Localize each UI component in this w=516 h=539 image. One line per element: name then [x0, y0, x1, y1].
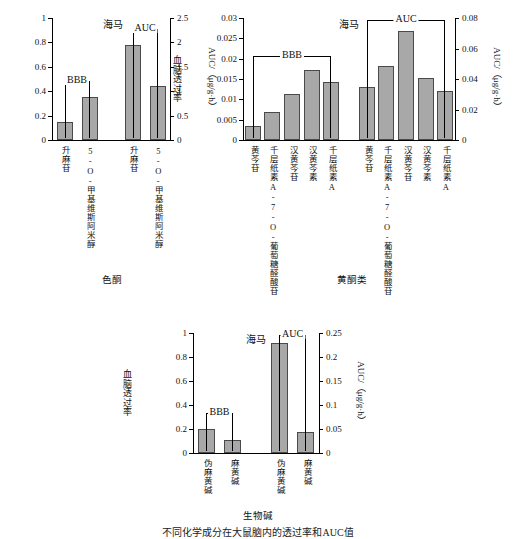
- left-axis-line: [193, 333, 194, 454]
- right-tick-mark: [319, 381, 323, 382]
- section-label-chromone: 色酮: [102, 272, 122, 286]
- left-tick-label: 0.4: [147, 401, 187, 410]
- right-tick-mark: [319, 357, 323, 358]
- right-axis-title: AUC/（μg/g·h）: [355, 361, 368, 424]
- left-tick-label: 1: [147, 329, 187, 338]
- right-tick-mark: [319, 333, 323, 334]
- chart-title: 海马: [246, 331, 266, 346]
- group-bracket-bbb: [206, 413, 233, 451]
- right-tick-label: 0.25: [326, 329, 342, 338]
- category-label: 麻黄碱: [301, 459, 311, 486]
- category-label: 伪麻黄碱: [202, 459, 212, 495]
- left-tick-label: 0.6: [147, 377, 187, 386]
- left-axis-title: 血脑透过率: [121, 369, 134, 417]
- right-tick-label: 0.05: [326, 425, 342, 434]
- right-tick-mark: [319, 405, 323, 406]
- left-tick-mark: [189, 429, 193, 430]
- left-tick-label: 0: [147, 449, 187, 458]
- right-axis-line: [319, 333, 320, 454]
- figure-caption: 不同化学成分在大鼠脑内的透过率和AUC值: [162, 524, 353, 539]
- group-label-auc: AUC: [280, 328, 305, 339]
- left-tick-label: 0.2: [147, 425, 187, 434]
- right-tick-label: 0: [326, 449, 331, 458]
- baseline-axis: [193, 453, 320, 454]
- right-tick-mark: [319, 453, 323, 454]
- right-tick-label: 0.15: [326, 377, 342, 386]
- group-label-bbb: BBB: [207, 406, 231, 417]
- right-tick-label: 0.1: [326, 401, 337, 410]
- left-tick-label: 0.8: [147, 353, 187, 362]
- section-label-alkaloid: 生物碱: [243, 508, 273, 522]
- group-bracket-auc: [279, 335, 306, 451]
- left-tick-mark: [189, 333, 193, 334]
- right-tick-label: 0.2: [326, 353, 337, 362]
- category-label: 麻黄碱: [228, 459, 238, 486]
- right-tick-mark: [319, 429, 323, 430]
- left-tick-mark: [189, 405, 193, 406]
- left-tick-mark: [189, 381, 193, 382]
- left-tick-mark: [189, 453, 193, 454]
- section-label-flavonoid: 黄酮类: [337, 272, 367, 286]
- left-tick-mark: [189, 357, 193, 358]
- category-label: 伪麻黄碱: [275, 459, 285, 495]
